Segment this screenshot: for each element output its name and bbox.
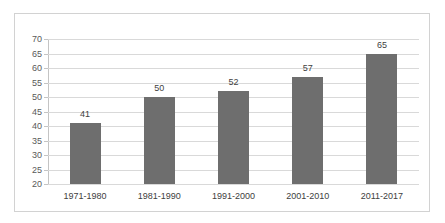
- y-axis-tick-mark: [44, 83, 48, 84]
- bar-value-label: 41: [80, 110, 90, 119]
- y-axis-tick-label: 45: [32, 107, 42, 116]
- y-axis-tick-mark: [44, 112, 48, 113]
- gridline: [48, 184, 419, 185]
- y-axis-tick-mark: [44, 184, 48, 185]
- y-axis-tick-mark: [44, 68, 48, 69]
- x-axis-category-label: 2001-2010: [286, 192, 329, 201]
- bar[interactable]: [144, 97, 175, 184]
- bar[interactable]: [70, 123, 101, 184]
- y-axis-tick-mark: [44, 170, 48, 171]
- bar-value-label: 52: [228, 78, 238, 87]
- bar[interactable]: [366, 54, 397, 185]
- y-axis-tick-label: 60: [32, 64, 42, 73]
- x-axis-category-label: 1971-1980: [64, 192, 107, 201]
- y-axis-tick-label: 25: [32, 165, 42, 174]
- bar-value-label: 65: [377, 41, 387, 50]
- gridline: [48, 39, 419, 40]
- y-axis-tick-mark: [44, 126, 48, 127]
- gridline: [48, 54, 419, 55]
- y-axis-tick-mark: [44, 54, 48, 55]
- y-axis-tick-mark: [44, 141, 48, 142]
- bar-value-label: 50: [154, 84, 164, 93]
- y-axis-tick-label: 65: [32, 49, 42, 58]
- bar-value-label: 57: [303, 64, 313, 73]
- y-axis-tick-mark: [44, 155, 48, 156]
- y-axis-tick-label: 70: [32, 35, 42, 44]
- y-axis-tick-mark: [44, 39, 48, 40]
- plot-area: [48, 39, 419, 184]
- gridline: [48, 68, 419, 69]
- y-axis-tick-label: 30: [32, 151, 42, 160]
- y-axis-tick-label: 40: [32, 122, 42, 131]
- y-axis-tick-label: 55: [32, 78, 42, 87]
- chart-frame: 2025303540455055606570411971-1980501981-…: [14, 13, 430, 212]
- y-axis-tick-label: 35: [32, 136, 42, 145]
- x-axis-category-label: 1981-1990: [138, 192, 181, 201]
- y-axis-tick-label: 20: [32, 180, 42, 189]
- y-axis-tick-label: 50: [32, 93, 42, 102]
- y-axis-tick-mark: [44, 97, 48, 98]
- x-axis-category-label: 2011-2017: [361, 192, 403, 201]
- bar[interactable]: [218, 91, 249, 184]
- bar[interactable]: [292, 77, 323, 184]
- x-axis-category-label: 1991-2000: [212, 192, 255, 201]
